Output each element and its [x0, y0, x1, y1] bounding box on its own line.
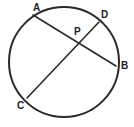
point-label-b: B: [121, 61, 128, 71]
circle-shape: [9, 7, 119, 117]
geometry-figure: A D P B C: [0, 0, 134, 127]
point-label-d: D: [101, 10, 108, 20]
point-label-a: A: [33, 3, 40, 13]
point-label-c: C: [17, 101, 24, 111]
point-label-p: P: [74, 27, 81, 37]
